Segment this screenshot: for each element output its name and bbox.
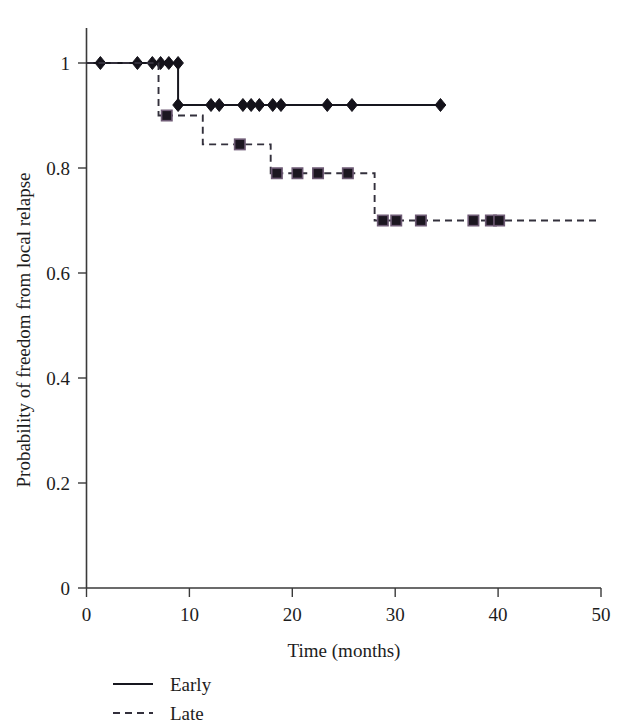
y-tick-label: 0 xyxy=(61,578,71,599)
censor-marker-square xyxy=(468,215,478,225)
censor-marker-square xyxy=(343,168,353,178)
y-tick-label: 0.4 xyxy=(46,368,70,389)
series-line-late xyxy=(87,63,602,221)
censor-marker-square xyxy=(494,215,504,225)
x-tick-label: 0 xyxy=(82,604,92,625)
kaplan-meier-figure: 00.20.40.60.81 01020304050 Time (months)… xyxy=(0,0,623,724)
y-tick-label: 0.8 xyxy=(46,158,70,179)
x-tick-label: 10 xyxy=(180,604,199,625)
legend-label-early: Early xyxy=(170,674,212,695)
censor-marker-square xyxy=(292,168,302,178)
censor-marker-diamond xyxy=(322,99,333,112)
censor-marker-square xyxy=(378,215,388,225)
series-late xyxy=(87,63,602,226)
censor-marker-square xyxy=(391,215,401,225)
x-tick-label: 50 xyxy=(592,604,611,625)
x-axis-ticks: 01020304050 xyxy=(82,588,611,625)
x-tick-label: 40 xyxy=(489,604,508,625)
censor-marker-diamond xyxy=(347,99,358,112)
censor-marker-diamond xyxy=(276,99,287,112)
censor-marker-diamond xyxy=(254,99,265,112)
series-line-early xyxy=(87,63,441,105)
censor-marker-square xyxy=(235,139,245,149)
censor-marker-diamond xyxy=(214,99,225,112)
x-tick-label: 20 xyxy=(283,604,302,625)
y-axis-title: Probability of freedom from local relaps… xyxy=(13,173,34,488)
y-tick-label: 0.2 xyxy=(46,473,70,494)
y-tick-label: 0.6 xyxy=(46,263,70,284)
censor-marker-diamond xyxy=(435,99,446,112)
x-axis-title: Time (months) xyxy=(288,640,401,662)
y-tick-label: 1 xyxy=(61,53,71,74)
censor-marker-square xyxy=(162,110,172,120)
series-layer xyxy=(87,57,602,226)
censor-marker-diamond xyxy=(173,57,184,70)
y-axis-ticks: 00.20.40.60.81 xyxy=(46,53,86,599)
censor-marker-square xyxy=(416,215,426,225)
chart-canvas: 00.20.40.60.81 01020304050 Time (months)… xyxy=(0,0,623,724)
legend-label-late: Late xyxy=(170,703,204,724)
x-tick-label: 30 xyxy=(386,604,405,625)
censor-marker-square xyxy=(272,168,282,178)
censor-marker-square xyxy=(313,168,323,178)
series-early xyxy=(87,57,446,112)
censor-marker-diamond xyxy=(173,99,184,112)
chart-legend: EarlyLate xyxy=(113,674,212,724)
